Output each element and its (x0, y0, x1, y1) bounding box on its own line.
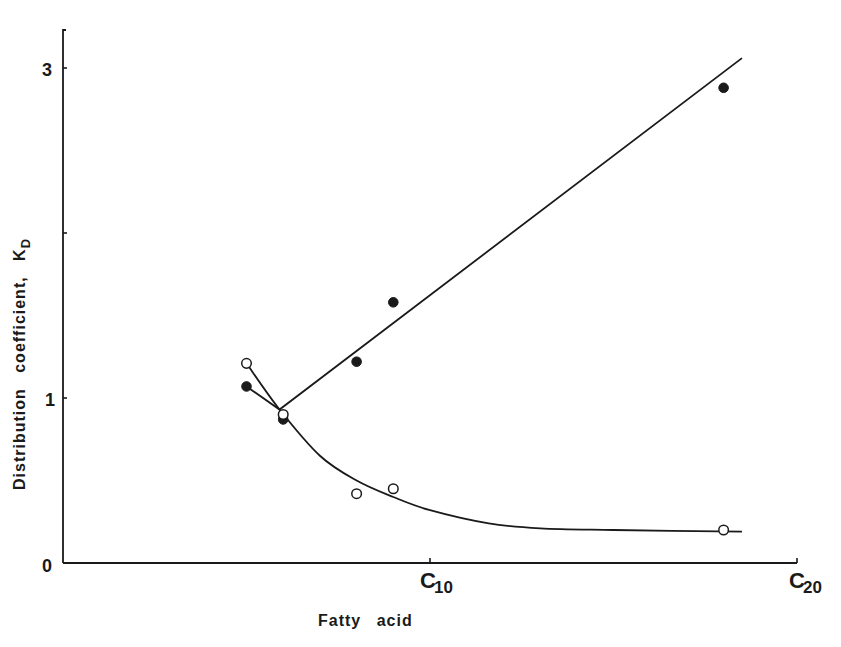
fit-line-filled (247, 58, 742, 409)
open-data-point (242, 359, 252, 369)
x-tick-label-c10: C 10 (420, 568, 453, 597)
open-data-point (278, 410, 288, 420)
filled-data-point (389, 298, 399, 308)
y-tick-label-1: 1 (45, 390, 55, 410)
svg-text:Distribution coefficient, KD: Distribution coefficient, KD (11, 238, 33, 490)
filled-data-point (242, 382, 252, 392)
axes (63, 30, 797, 563)
x-tick-label-c20: C 20 (789, 568, 822, 597)
data-points (242, 83, 729, 535)
open-data-point (389, 484, 399, 494)
y-axis-title: Distribution coefficient, KD (11, 238, 33, 490)
filled-data-point (719, 83, 729, 93)
y-axis-title-sub: D (18, 238, 33, 248)
y-axis-title-main: Distribution coefficient, K (11, 248, 28, 490)
chart-canvas: 3 1 0 C 10 C 20 Fatty acid Distribution … (0, 0, 841, 647)
y-tick-label-3: 3 (42, 60, 52, 80)
open-data-point (352, 489, 362, 499)
x-tick-10-sub: 10 (434, 578, 453, 597)
y-tick-label-0: 0 (42, 556, 52, 576)
x-axis-title: Fatty acid (318, 612, 413, 629)
x-tick-20-sub: 20 (803, 578, 822, 597)
open-data-point (719, 525, 729, 535)
fit-lines (247, 58, 742, 532)
y-axis-line (63, 30, 66, 563)
fit-line-open (247, 363, 742, 531)
filled-data-point (352, 357, 362, 367)
